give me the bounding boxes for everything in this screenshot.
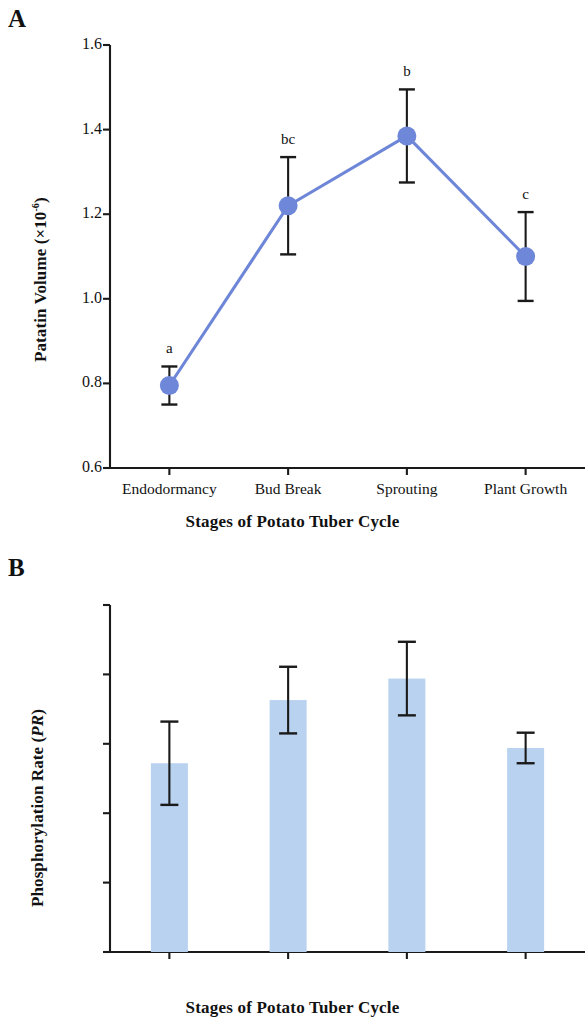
panel-b: B 01020304050EndodormancyBud BreakSprout… [0,545,585,1020]
panel-b-plot [0,545,585,1020]
y-axis-title: Phosphorylation Rate (PR) [28,708,48,906]
data-point-marker [279,196,298,215]
data-point-marker [160,376,179,395]
significance-letter: b [377,63,437,80]
y-tick-label: 1.4 [40,120,102,138]
bar [388,679,425,952]
y-axis-title: Patatin Volume (×10-6) [30,197,51,362]
data-line-series [169,136,525,386]
y-tick-label: 0.6 [40,458,102,476]
panel-a: A 0.60.81.01.21.41.6EndodormancyBud Brea… [0,0,585,545]
y-tick-label: 0.8 [40,373,102,391]
bar [507,748,544,952]
figure-container: A 0.60.81.01.21.41.6EndodormancyBud Brea… [0,0,585,1020]
data-point-marker [397,126,416,145]
significance-letter: bc [258,131,318,148]
bar [270,700,307,952]
x-axis-title: Stages of Potato Tuber Cycle [0,998,585,1018]
significance-letter: c [496,186,556,203]
data-point-marker [516,247,535,266]
x-category-label: Plant Growth [456,480,585,498]
y-tick-label: 1.6 [40,35,102,53]
x-axis-title: Stages of Potato Tuber Cycle [0,512,585,532]
significance-letter: a [139,340,199,357]
